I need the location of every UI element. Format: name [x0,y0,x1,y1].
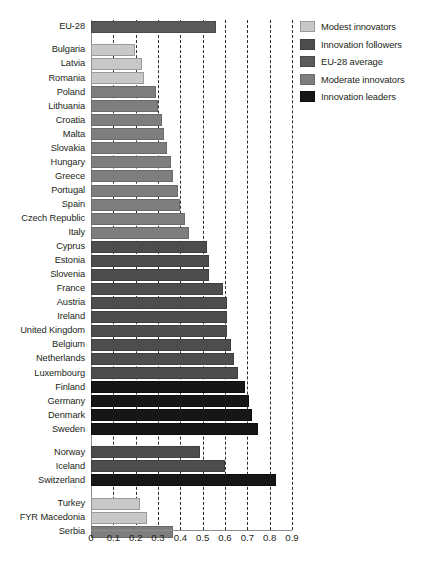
category-label: Lithuania [0,102,88,111]
x-tick-label: 0.5 [196,533,209,543]
bar[interactable] [91,395,249,407]
bar-track [88,422,300,436]
x-tick-label: 0.1 [107,533,120,543]
category-label: Ireland [0,312,88,321]
bar[interactable] [91,367,238,379]
bar-row: Spain [0,198,300,212]
bar[interactable] [91,185,178,197]
bar[interactable] [91,460,225,472]
category-label: Hungary [0,158,88,167]
bar[interactable] [91,58,142,70]
bar[interactable] [91,283,223,295]
category-label: Netherlands [0,354,88,363]
legend-label: Moderate innovators [321,75,405,84]
bar-row: Lithuania [0,99,300,113]
bar[interactable] [91,199,180,211]
bar[interactable] [91,297,227,309]
x-tick-label: 0 [88,533,93,543]
bar[interactable] [91,86,156,98]
bar-row: Turkey [0,497,300,511]
bar-rows: EU-28BulgariaLatviaRomaniaPolandLithuani… [0,20,300,539]
bar-row: Finland [0,380,300,394]
bar[interactable] [91,213,185,225]
bar-track [88,324,300,338]
bar-row: Iceland [0,459,300,473]
legend-label: EU-28 average [321,57,383,66]
category-label: Austria [0,298,88,307]
bar-track [88,380,300,394]
bar-row: Romania [0,71,300,85]
bar[interactable] [91,72,144,84]
bar-row: Poland [0,85,300,99]
legend-swatch-icon [300,91,315,102]
bar-track [88,445,300,459]
bar-track [88,20,300,34]
bar[interactable] [91,381,245,393]
legend-item[interactable]: Innovation leaders [300,88,426,106]
bar[interactable] [91,423,258,435]
bar[interactable] [91,512,147,524]
bar-track [88,352,300,366]
bar[interactable] [91,170,173,182]
bar-track [88,240,300,254]
bar[interactable] [91,44,135,56]
bar[interactable] [91,241,207,253]
bar[interactable] [91,114,162,126]
row-spacer [0,34,300,43]
bar-row: Portugal [0,184,300,198]
bar-track [88,296,300,310]
legend-swatch-icon [300,74,315,85]
bar-row: Denmark [0,408,300,422]
chart-legend: Modest innovatorsInnovation followersEU-… [300,18,426,106]
bar[interactable] [91,227,189,239]
category-label: Luxembourg [0,369,88,378]
category-label: Serbia [0,527,88,536]
bar[interactable] [91,269,209,281]
bar[interactable] [91,339,231,351]
bar-track [88,43,300,57]
bar-track [88,268,300,282]
bar-row: Italy [0,226,300,240]
legend-item[interactable]: EU-28 average [300,53,426,71]
legend-item[interactable]: Innovation followers [300,36,426,54]
bar[interactable] [91,498,140,510]
category-label: Germany [0,397,88,406]
category-label: Estonia [0,256,88,265]
bar[interactable] [91,156,171,168]
legend-item[interactable]: Moderate innovators [300,71,426,89]
bar[interactable] [91,142,167,154]
bar-row: EU-28 [0,20,300,34]
bar[interactable] [91,311,227,323]
bar[interactable] [91,353,234,365]
legend-item[interactable]: Modest innovators [300,18,426,36]
category-label: United Kingdom [0,326,88,335]
bar-row: Switzerland [0,473,300,487]
bar[interactable] [91,128,164,140]
bar-row: Croatia [0,113,300,127]
bar-track [88,184,300,198]
bar-row: Cyprus [0,240,300,254]
category-label: Bulgaria [0,45,88,54]
category-label: Czech Republic [0,214,88,223]
bar[interactable] [91,325,227,337]
plot-area: EU-28BulgariaLatviaRomaniaPolandLithuani… [0,0,300,562]
category-label: Portugal [0,186,88,195]
category-label: Croatia [0,116,88,125]
bar[interactable] [91,409,252,421]
bar-row: Hungary [0,155,300,169]
x-axis-line [91,530,292,531]
bar[interactable] [91,446,200,458]
bar-row: Luxembourg [0,366,300,380]
bar-row: Serbia [0,525,300,539]
category-label: Sweden [0,425,88,434]
bar-row: Norway [0,445,300,459]
category-label: Cyprus [0,242,88,251]
bar[interactable] [91,21,216,33]
bar-track [88,155,300,169]
row-spacer [0,436,300,445]
bar-row: Bulgaria [0,43,300,57]
bar[interactable] [91,474,276,486]
bar[interactable] [91,100,158,112]
row-spacer [0,488,300,497]
bar[interactable] [91,255,209,267]
